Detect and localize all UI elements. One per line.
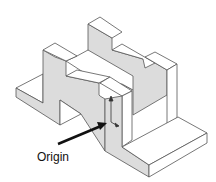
back-right-side	[167, 64, 177, 124]
front-block-right-side	[122, 91, 132, 147]
origin-label: Origin	[37, 151, 69, 163]
isometric-part-drawing	[0, 0, 216, 182]
z-axis-arrowhead-icon	[109, 96, 113, 101]
